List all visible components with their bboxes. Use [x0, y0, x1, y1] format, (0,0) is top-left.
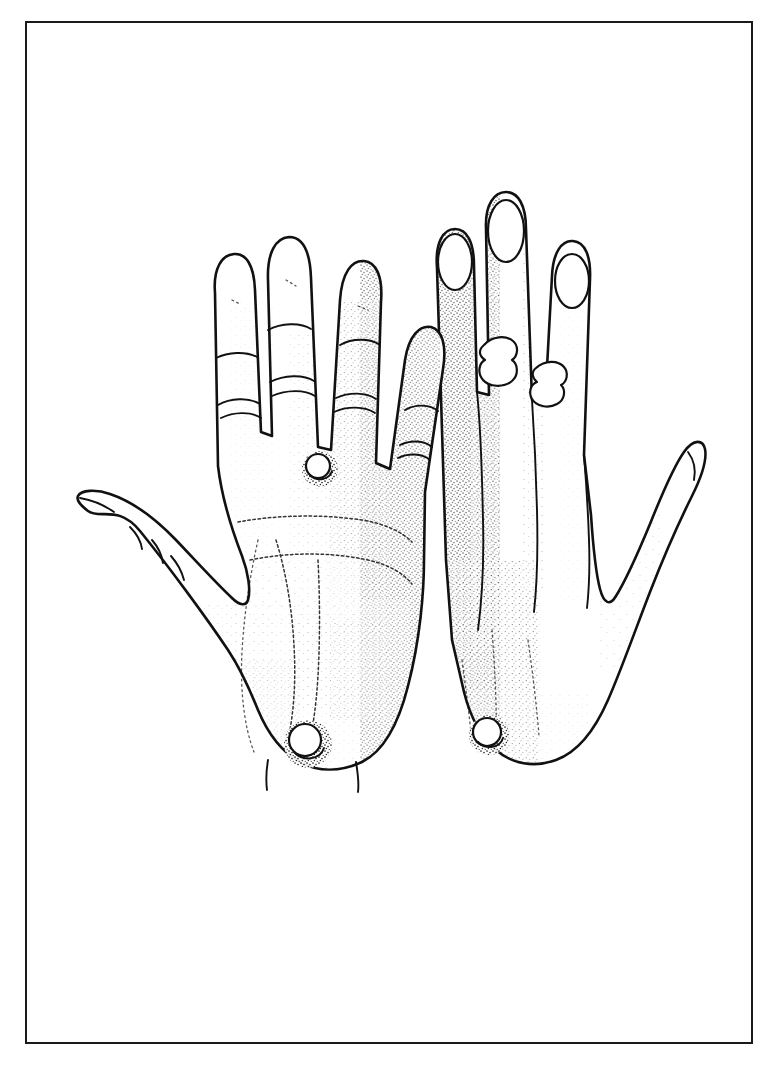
nail-ring: [555, 254, 589, 308]
hands-line-drawing: [0, 0, 768, 1069]
hands-illustration: [0, 0, 768, 1069]
nail-middle: [488, 200, 524, 262]
right-hand-dorsal: [430, 180, 705, 800]
wart-middle-finger: [479, 337, 517, 386]
wart-ring-finger: [530, 362, 567, 407]
wart-dorsum-right-hand: [469, 715, 509, 755]
left-hand-palmar: [77, 230, 444, 792]
figure-page: [0, 0, 768, 1069]
nail-index: [438, 234, 472, 290]
wart-wrist-left-hand: [284, 720, 332, 768]
wart-interdigital-left-hand: [302, 451, 338, 487]
